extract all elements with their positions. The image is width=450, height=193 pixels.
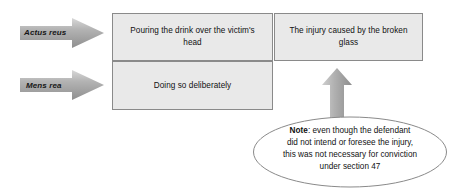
flow-box-injury: The injury caused by the broken glass xyxy=(274,13,423,61)
flow-box-actus-reus: Pouring the drink over the victim's head xyxy=(112,13,273,61)
flow-box-mens-rea: Doing so deliberately xyxy=(112,61,273,110)
side-label-actus-reus: Actus reus xyxy=(24,28,66,37)
note-line-3: this was not necessary for conviction xyxy=(283,150,417,159)
arrow-up-icon-note-to-injury xyxy=(322,68,352,118)
note-line-4: under section 47 xyxy=(320,162,381,171)
flow-box-actus-reus-label: Pouring the drink over the victim's head xyxy=(120,25,265,49)
note-line-1: even though the defendant xyxy=(312,126,410,135)
note-callout: Note: even though the defendant did not … xyxy=(252,116,448,188)
flow-box-injury-label: The injury caused by the broken glass xyxy=(282,25,415,49)
note-text: Note: even though the defendant did not … xyxy=(264,125,436,174)
diagram-canvas: Actus reus Mens rea Pouring the drink ov… xyxy=(0,0,450,193)
note-label: Note xyxy=(290,126,308,135)
flow-box-mens-rea-label: Doing so deliberately xyxy=(154,80,232,92)
note-line-2: did not intend or foresee the injury, xyxy=(287,138,413,147)
side-label-mens-rea: Mens rea xyxy=(26,81,61,90)
